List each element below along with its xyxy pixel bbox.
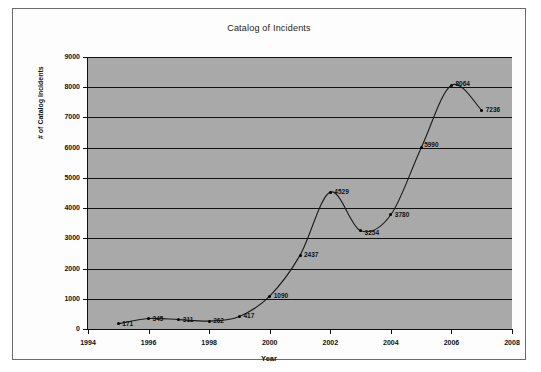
data-marker: [450, 84, 453, 87]
data-marker: [208, 320, 211, 323]
x-tick-label: 2002: [310, 339, 350, 346]
x-axis-line: [87, 329, 512, 330]
plot-area: 1713453112624171090243745293254378059908…: [88, 57, 512, 329]
data-point-label: 5990: [424, 141, 438, 148]
chart-screenshot: Catalog of Incidents 1713453112624171090…: [0, 0, 541, 372]
y-tick-label: 0: [46, 325, 80, 332]
data-point-label: 171: [122, 320, 133, 327]
x-tick-label: 2008: [492, 339, 532, 346]
y-tick-label: 6000: [46, 144, 80, 151]
data-point-label: 7236: [486, 106, 500, 113]
x-tick-mark: [209, 329, 210, 334]
data-point-label: 2437: [304, 251, 318, 258]
y-tick-label: 7000: [46, 113, 80, 120]
data-marker: [268, 295, 271, 298]
y-tick-label: 9000: [46, 53, 80, 60]
y-tick-label: 2000: [46, 265, 80, 272]
data-point-label: 3254: [365, 229, 379, 236]
x-tick-mark: [149, 329, 150, 334]
data-point-label: 3780: [395, 211, 409, 218]
data-marker: [299, 254, 302, 257]
x-tick-label: 2006: [431, 339, 471, 346]
data-marker: [329, 191, 332, 194]
x-tick-label: 1994: [68, 339, 108, 346]
x-axis-title: Year: [13, 354, 525, 363]
y-axis-title: # of Catalog Incidents: [37, 66, 44, 139]
x-tick-mark: [270, 329, 271, 334]
data-marker: [238, 315, 241, 318]
series-line: [88, 57, 512, 329]
data-point-label: 345: [153, 315, 164, 322]
x-tick-label: 2000: [250, 339, 290, 346]
data-point-label: 262: [213, 317, 224, 324]
x-tick-label: 1996: [129, 339, 169, 346]
x-tick-mark: [330, 329, 331, 334]
x-tick-mark: [391, 329, 392, 334]
x-tick-label: 1998: [189, 339, 229, 346]
y-tick-label: 5000: [46, 174, 80, 181]
data-point-label: 1090: [274, 292, 288, 299]
y-tick-label: 8000: [46, 83, 80, 90]
x-tick-mark: [512, 329, 513, 334]
y-axis-line: [87, 57, 88, 330]
x-tick-mark: [451, 329, 452, 334]
data-point-label: 417: [243, 312, 254, 319]
x-tick-label: 2004: [371, 339, 411, 346]
data-point-label: 8064: [455, 80, 469, 87]
series-path: [118, 84, 481, 323]
x-tick-mark: [88, 329, 89, 334]
chart-title: Catalog of Incidents: [13, 23, 525, 33]
y-tick-label: 3000: [46, 234, 80, 241]
y-tick-label: 4000: [46, 204, 80, 211]
chart-frame: Catalog of Incidents 1713453112624171090…: [12, 8, 526, 360]
data-point-label: 311: [183, 316, 194, 323]
y-tick-label: 1000: [46, 295, 80, 302]
data-point-label: 4529: [334, 188, 348, 195]
